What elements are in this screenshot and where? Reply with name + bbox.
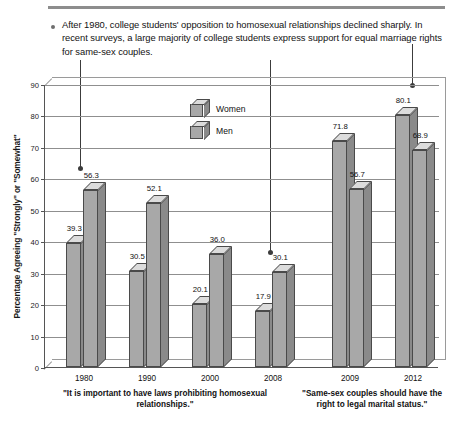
bar-front-face: [83, 190, 98, 367]
y-axis-tick-label: 40: [31, 238, 39, 247]
bar-front-face: [412, 150, 427, 367]
bar-front-face: [349, 189, 364, 367]
bar-value-label: 56.3: [84, 171, 99, 180]
bar-side-face: [161, 195, 169, 367]
leader-line-2012: [412, 44, 413, 85]
bar-men-2009: 56.7: [349, 189, 364, 367]
y-axis-tick: [41, 148, 45, 149]
bar-front-face: [192, 304, 207, 367]
bar-front-face: [209, 254, 224, 367]
y-axis-tick: [41, 242, 45, 243]
bar-value-label: 80.1: [396, 96, 411, 105]
bar-value-label: 68.9: [413, 131, 428, 140]
bar-front-face: [272, 272, 287, 367]
y-axis-tick: [41, 179, 45, 180]
x-axis-label-2012: 2012: [404, 374, 422, 383]
x-axis-label-1990: 1990: [138, 374, 156, 383]
top-divider-rule: [48, 6, 445, 9]
bar-side-face: [427, 142, 435, 367]
y-axis-tick-label: 20: [31, 301, 39, 310]
bar-women-2012: 80.1: [395, 115, 410, 367]
legend-label-men: Men: [216, 126, 233, 136]
bar-women-2008: 17.9: [255, 311, 270, 367]
y-axis-tick-label: 50: [31, 206, 39, 215]
y-axis-title: Percentage Agreeing "Strongly" or "Somew…: [10, 85, 24, 368]
plot-area: 0102030405060708090 39.356.330.552.120.1…: [44, 85, 438, 368]
bar-value-label: 30.1: [273, 253, 288, 262]
gridline: [45, 148, 439, 149]
y-axis-tick: [41, 368, 45, 369]
legend-label-women: Women: [216, 104, 245, 114]
bar-women-1980: 39.3: [66, 243, 81, 367]
bar-women-2000: 20.1: [192, 304, 207, 367]
bar-men-2000: 36.0: [209, 254, 224, 367]
bar-women-1990: 30.5: [129, 271, 144, 367]
bar-front-face: [395, 115, 410, 367]
x-axis-label-2008: 2008: [264, 374, 282, 383]
x-axis-label-1980: 1980: [75, 374, 93, 383]
bar-value-label: 36.0: [210, 235, 225, 244]
note-callout: After 1980, college students' opposition…: [51, 18, 443, 58]
y-axis-tick-label: 70: [31, 143, 39, 152]
gridline: [45, 179, 439, 180]
bar-value-label: 39.3: [67, 224, 82, 233]
bar-side-face: [224, 246, 232, 367]
bar-side-face: [98, 182, 106, 367]
bar-value-label: 30.5: [130, 252, 145, 261]
bar-front-face: [146, 203, 161, 367]
y-axis-tick-label: 30: [31, 269, 39, 278]
note-text: After 1980, college students' opposition…: [51, 18, 443, 58]
bar-value-label: 56.7: [350, 170, 365, 179]
x-axis-label-2000: 2000: [201, 374, 219, 383]
bar-women-2009: 71.8: [332, 141, 347, 367]
bullet-dot-icon: [51, 25, 55, 29]
bar-front-face: [255, 311, 270, 367]
y-axis-tick-label: 80: [31, 112, 39, 121]
gridline: [45, 85, 439, 86]
bar-value-label: 20.1: [193, 285, 208, 294]
bar-men-1990: 52.1: [146, 203, 161, 367]
y-axis-tick: [41, 305, 45, 306]
bar-front-face: [332, 141, 347, 367]
y-axis-tick-label: 10: [31, 332, 39, 341]
y-axis-tick: [41, 116, 45, 117]
bar-side-face: [287, 264, 295, 367]
y-axis-tick-label: 0: [35, 364, 39, 373]
bar-men-2012: 68.9: [412, 150, 427, 367]
y-axis-tick-label: 90: [31, 81, 39, 90]
y-axis-tick: [41, 85, 45, 86]
y-axis-tick: [41, 337, 45, 338]
bar-front-face: [66, 243, 81, 367]
bar-value-label: 17.9: [256, 292, 271, 301]
bar-men-1980: 56.3: [83, 190, 98, 367]
x-axis-label-2009: 2009: [341, 374, 359, 383]
bar-men-2008: 30.1: [272, 272, 287, 367]
y-axis-tick-label: 60: [31, 175, 39, 184]
bar-front-face: [129, 271, 144, 367]
cube-icon: [190, 126, 203, 139]
y-axis-tick: [41, 274, 45, 275]
caption-right: "Same-sex couples should have the right …: [297, 389, 447, 410]
bar-value-label: 52.1: [147, 184, 162, 193]
caption-left: "It is important to have laws prohibitin…: [60, 389, 270, 410]
cube-icon: [190, 104, 203, 117]
bar-value-label: 71.8: [333, 122, 348, 131]
gridline: [45, 116, 439, 117]
y-axis-tick: [41, 211, 45, 212]
bar-side-face: [364, 181, 372, 367]
